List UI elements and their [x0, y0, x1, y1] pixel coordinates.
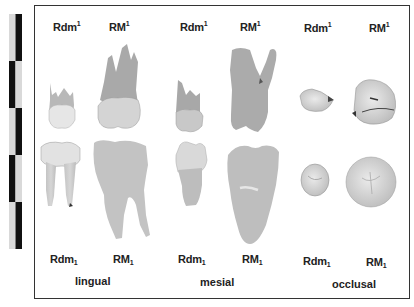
label-superscript: 1 — [126, 20, 130, 27]
label-superscript: 1 — [77, 20, 81, 27]
label-rdm-lower-lingual: Rdm1 — [50, 253, 78, 266]
label-base: Rdm — [304, 22, 328, 34]
label-subscript: 1 — [259, 259, 263, 266]
label-subscript: 1 — [74, 259, 78, 266]
label-base: Rdm — [303, 255, 327, 267]
label-rdm-upper-mesial: Rdm1 — [180, 20, 208, 33]
label-base: Rdm — [50, 253, 74, 265]
tooth-rm-lower-occlusal — [346, 157, 396, 207]
label-base: RM — [240, 21, 257, 33]
label-subscript: 1 — [327, 261, 331, 268]
label-base: Rdm — [178, 253, 202, 265]
label-subscript: 1 — [383, 262, 387, 269]
tooth-rdm-upper-lingual — [49, 83, 75, 128]
label-rdm-lower-mesial: Rdm1 — [178, 253, 206, 266]
label-subscript: 1 — [130, 259, 134, 266]
label-base: RM — [369, 22, 386, 34]
label-subscript: 1 — [202, 259, 206, 266]
tooth-rm-lower-lingual — [94, 140, 151, 239]
label-superscript: 1 — [204, 20, 208, 27]
label-superscript: 1 — [386, 21, 390, 28]
label-rm-upper-occlusal: RM1 — [369, 21, 389, 34]
label-base: Rdm — [180, 21, 204, 33]
label-rm-upper-mesial: RM1 — [240, 20, 260, 33]
tooth-rm-upper-mesial — [230, 48, 276, 132]
tooth-rdm-upper-mesial — [176, 80, 203, 132]
label-rdm-upper-occlusal: Rdm1 — [304, 21, 332, 34]
tooth-rdm-lower-mesial — [176, 142, 207, 206]
view-label-occlusal: occlusal — [332, 278, 376, 290]
label-base: Rdm — [53, 21, 77, 33]
label-rdm-lower-occlusal: Rdm1 — [303, 255, 331, 268]
tooth-rdm-upper-occlusal — [300, 89, 334, 111]
label-base: RM — [109, 21, 126, 33]
tooth-rm-lower-mesial — [227, 146, 279, 244]
label-rm-upper-lingual: RM1 — [109, 20, 129, 33]
label-superscript: 1 — [328, 21, 332, 28]
label-base: RM — [366, 256, 383, 268]
view-label-mesial: mesial — [200, 276, 234, 288]
label-base: RM — [113, 253, 130, 265]
label-superscript: 1 — [257, 20, 261, 27]
label-rm-lower-lingual: RM1 — [113, 253, 133, 266]
label-rm-lower-occlusal: RM1 — [366, 256, 386, 269]
label-rm-lower-mesial: RM1 — [242, 253, 262, 266]
tooth-rdm-lower-lingual — [41, 142, 80, 207]
tooth-rm-upper-occlusal — [352, 80, 396, 124]
label-rdm-upper-lingual: Rdm1 — [53, 20, 81, 33]
tooth-rm-upper-lingual — [98, 44, 140, 128]
view-label-lingual: lingual — [75, 275, 110, 287]
tooth-rdm-lower-occlusal — [301, 164, 329, 196]
label-base: RM — [242, 253, 259, 265]
